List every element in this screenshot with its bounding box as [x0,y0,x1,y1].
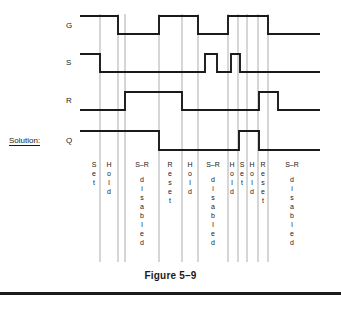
signal-waveforms [80,16,320,150]
waveform-q [80,131,320,150]
waveform-s [80,54,320,72]
divider-lines [100,14,268,262]
bottom-divider-rule [0,292,341,295]
waveform-g [80,16,320,34]
waveform-r [80,92,320,110]
waveform-canvas [0,0,341,312]
timing-diagram-figure: G S R Q Solution: SetHoldS–RdisabledRese… [0,0,341,312]
figure-caption: Figure 5–9 [0,270,341,281]
